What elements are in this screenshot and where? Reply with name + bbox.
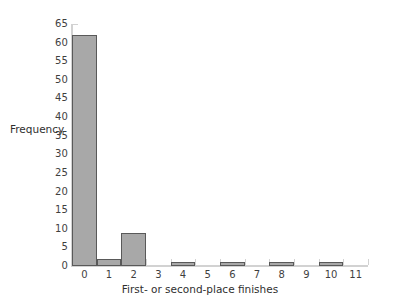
x-tick-label: 1 <box>97 269 121 280</box>
bar <box>121 233 146 267</box>
y-tick-label: 5 <box>62 242 68 252</box>
y-tick-label: 60 <box>55 38 68 48</box>
x-tick-mark <box>368 259 369 265</box>
x-tick-label: 4 <box>171 269 195 280</box>
bar <box>72 35 97 266</box>
y-tick-mark <box>73 266 78 267</box>
plot-area <box>72 24 368 266</box>
y-tick-label: 40 <box>55 112 68 122</box>
y-tick-label: 65 <box>55 19 68 29</box>
bar <box>269 262 294 266</box>
x-tick-label: 8 <box>270 269 294 280</box>
x-tick-label: 9 <box>294 269 318 280</box>
x-tick-label: 2 <box>122 269 146 280</box>
bar <box>171 262 196 266</box>
x-tick-label: 6 <box>220 269 244 280</box>
x-tick-label: 10 <box>319 269 343 280</box>
bar <box>319 262 344 266</box>
x-tick-label: 3 <box>146 269 170 280</box>
bar <box>220 262 245 266</box>
y-tick-label: 15 <box>55 205 68 215</box>
x-tick-label: 7 <box>245 269 269 280</box>
x-tick-label: 5 <box>196 269 220 280</box>
bar <box>97 259 122 266</box>
x-axis-title: First- or second-place finishes <box>0 283 400 295</box>
y-tick-label: 25 <box>55 168 68 178</box>
x-tick-label: 0 <box>72 269 96 280</box>
histogram-chart: 05101520253035404550556065 0123456789101… <box>0 0 400 301</box>
y-tick-label: 30 <box>55 149 68 159</box>
y-tick-label: 20 <box>55 187 68 197</box>
y-axis-title: Frequency <box>10 123 64 135</box>
y-tick-label: 45 <box>55 93 68 103</box>
y-tick-label: 10 <box>55 224 68 234</box>
y-tick-label: 50 <box>55 75 68 85</box>
x-tick-label: 11 <box>344 269 368 280</box>
y-tick-label: 0 <box>62 261 68 271</box>
y-tick-label: 55 <box>55 56 68 66</box>
